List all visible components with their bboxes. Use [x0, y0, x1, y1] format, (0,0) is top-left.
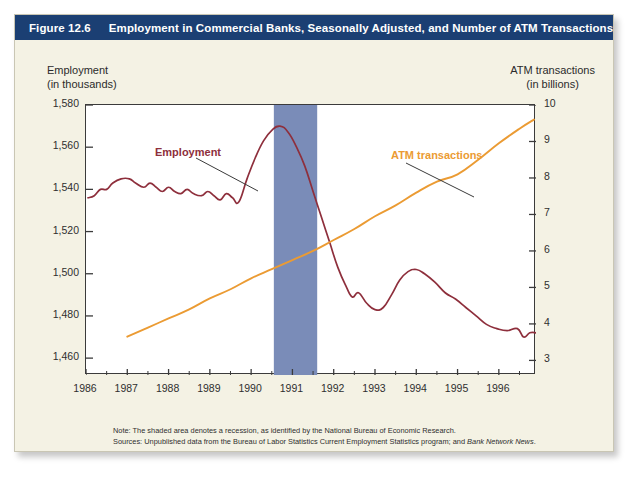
y-axis-left-tick-label: 1,580 [37, 97, 79, 109]
x-axis-tick-label: 1986 [63, 382, 107, 394]
footnotes: Note: The shaded area denotes a recessio… [113, 425, 583, 447]
y-axis-left-tick-label: 1,480 [37, 308, 79, 320]
y-axis-left-tick-label: 1,520 [37, 224, 79, 236]
x-axis-tick-label: 1995 [435, 382, 479, 394]
footnote-sources-italic: Bank Network News [467, 437, 534, 446]
y-axis-left-tick-label: 1,500 [37, 266, 79, 278]
y-axis-right-tick-label: 7 [544, 206, 568, 218]
x-axis-tick-label: 1988 [146, 382, 190, 394]
figure-title: Employment in Commercial Banks, Seasonal… [109, 22, 613, 34]
x-axis-tick-label: 1989 [187, 382, 231, 394]
chart-canvas [86, 105, 536, 375]
figure-title-bar: Figure 12.6 Employment in Commercial Ban… [15, 15, 613, 40]
footnote-sources-suffix: . [534, 437, 536, 446]
x-axis-tick-label: 1994 [393, 382, 437, 394]
x-axis-tick-label: 1990 [228, 382, 272, 394]
footnote-sources: Sources: Unpublished data from the Burea… [113, 436, 583, 447]
y-axis-right-tick-label: 3 [544, 352, 568, 364]
annotation-leader-lines [196, 158, 474, 197]
x-axis-tick-label: 1987 [104, 382, 148, 394]
y-axis-left-tick-label: 1,540 [37, 181, 79, 193]
figure-page: Figure 12.6 Employment in Commercial Ban… [0, 0, 632, 481]
y-axis-right-tick-label: 5 [544, 279, 568, 291]
y-axis-left-tick-label: 1,460 [37, 350, 79, 362]
y-axis-left-tick-label: 1,560 [37, 139, 79, 151]
x-axis-tick-label: 1996 [476, 382, 520, 394]
series-label-employment: Employment [155, 146, 221, 158]
y-axis-right-tick-label: 8 [544, 170, 568, 182]
y-axis-right-tick-label: 6 [544, 243, 568, 255]
y-axis-right-title: ATM transactions (in billions) [510, 63, 595, 91]
y-axis-right-tick-label: 4 [544, 316, 568, 328]
y-axis-right-title-line2: (in billions) [510, 77, 595, 91]
y-axis-left-title: Employment (in thousands) [47, 63, 117, 91]
footnote-note: Note: The shaded area denotes a recessio… [113, 425, 583, 436]
y-axis-right-title-line1: ATM transactions [510, 63, 595, 77]
figure-number: Figure 12.6 [29, 22, 91, 34]
x-axis-tick-label: 1991 [269, 382, 313, 394]
y-axis-right-tick-label: 10 [544, 97, 568, 109]
y-axis-right-tick-label: 9 [544, 133, 568, 145]
figure-card: Figure 12.6 Employment in Commercial Ban… [14, 14, 614, 452]
y-axis-left-title-line2: (in thousands) [47, 77, 117, 91]
footnote-sources-prefix: Sources: Unpublished data from the Burea… [113, 437, 467, 446]
plot-area [85, 104, 535, 374]
x-axis-tick-label: 1993 [352, 382, 396, 394]
series-label-atm: ATM transactions [391, 149, 482, 161]
x-axis-tick-label: 1992 [311, 382, 355, 394]
y-axis-left-title-line1: Employment [47, 63, 117, 77]
